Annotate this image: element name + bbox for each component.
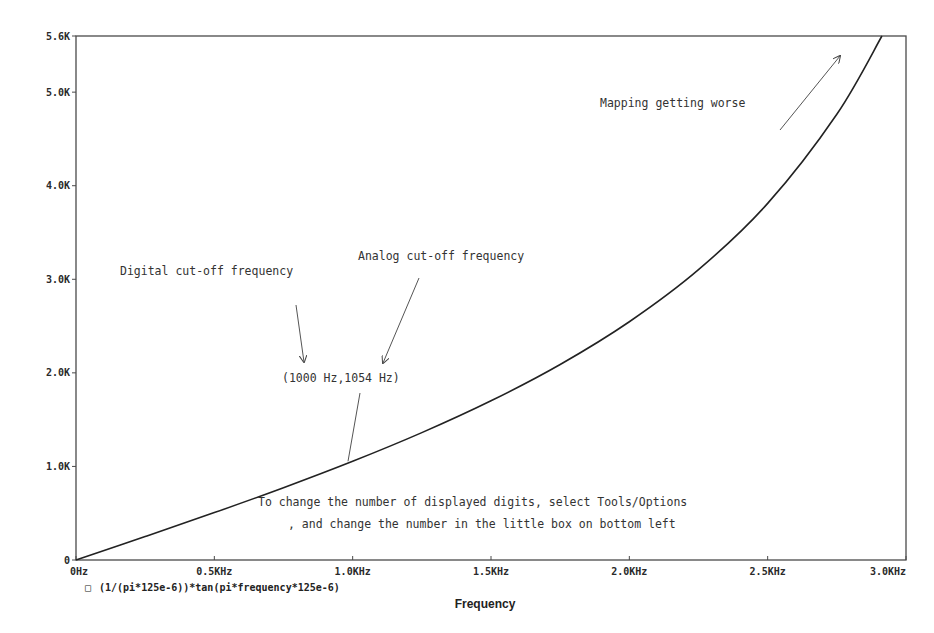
y-tick-label: 5.6K — [46, 31, 70, 42]
x-tick-label: 1.0KHz — [335, 566, 371, 577]
arrow-icon — [780, 56, 840, 130]
series-layer — [76, 36, 882, 560]
y-tick-label: 3.0K — [46, 274, 70, 285]
legend: □ (1/(pi*125e-6))*tan(pi*frequency*125e-… — [85, 582, 340, 593]
x-axis-label: Frequency — [455, 597, 516, 611]
chart: 01.0K2.0K3.0K4.0K5.0K5.6K 0Hz0.5KHz1.0KH… — [0, 0, 934, 633]
y-tick-label: 0 — [64, 555, 70, 566]
annotation-text: Mapping getting worse — [600, 96, 745, 110]
annotation-text: , and change the number in the little bo… — [288, 517, 676, 531]
arrow-icon — [296, 305, 304, 362]
y-tick-label: 2.0K — [46, 367, 70, 378]
pointer-line — [348, 393, 360, 461]
y-tick-label: 5.0K — [46, 87, 70, 98]
series-line — [76, 36, 882, 560]
plot-frame — [76, 36, 906, 560]
y-tick-label: 4.0K — [46, 180, 70, 191]
y-tick-label: 1.0K — [46, 461, 70, 472]
x-tick-label: 0Hz — [70, 566, 88, 577]
arrow-icon — [383, 278, 419, 363]
x-tick-label: 2.0KHz — [611, 566, 647, 577]
annotations: Mapping getting worseDigital cut-off fre… — [120, 56, 840, 531]
x-tick-label: 0.5KHz — [196, 566, 232, 577]
legend-marker-icon: □ — [85, 582, 91, 593]
legend-label: (1/(pi*125e-6))*tan(pi*frequency*125e-6) — [99, 582, 340, 593]
x-tick-label: 3.0KHz — [870, 566, 906, 577]
y-axis: 01.0K2.0K3.0K4.0K5.0K5.6K — [46, 31, 76, 566]
x-tick-label: 2.5KHz — [750, 566, 786, 577]
annotation-text: (1000 Hz,1054 Hz) — [282, 371, 400, 385]
annotation-text: Digital cut-off frequency — [120, 264, 293, 278]
x-axis: 0Hz0.5KHz1.0KHz1.5KHz2.0KHz2.5KHz3.0KHz — [70, 556, 906, 577]
annotation-text: To change the number of displayed digits… — [258, 495, 687, 509]
x-tick-label: 1.5KHz — [473, 566, 509, 577]
annotation-text: Analog cut-off frequency — [358, 249, 524, 263]
